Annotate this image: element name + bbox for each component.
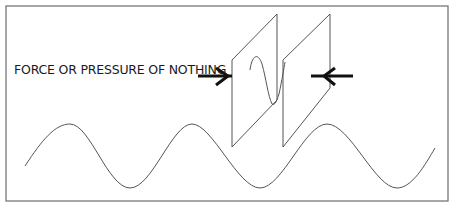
left-plate [232,14,277,147]
force-label: FORCE OR PRESSURE OF NOTHING [14,62,226,77]
frame [6,6,448,201]
casimir-diagram [0,0,455,206]
long-wave [25,124,435,188]
right-plate [283,14,330,147]
